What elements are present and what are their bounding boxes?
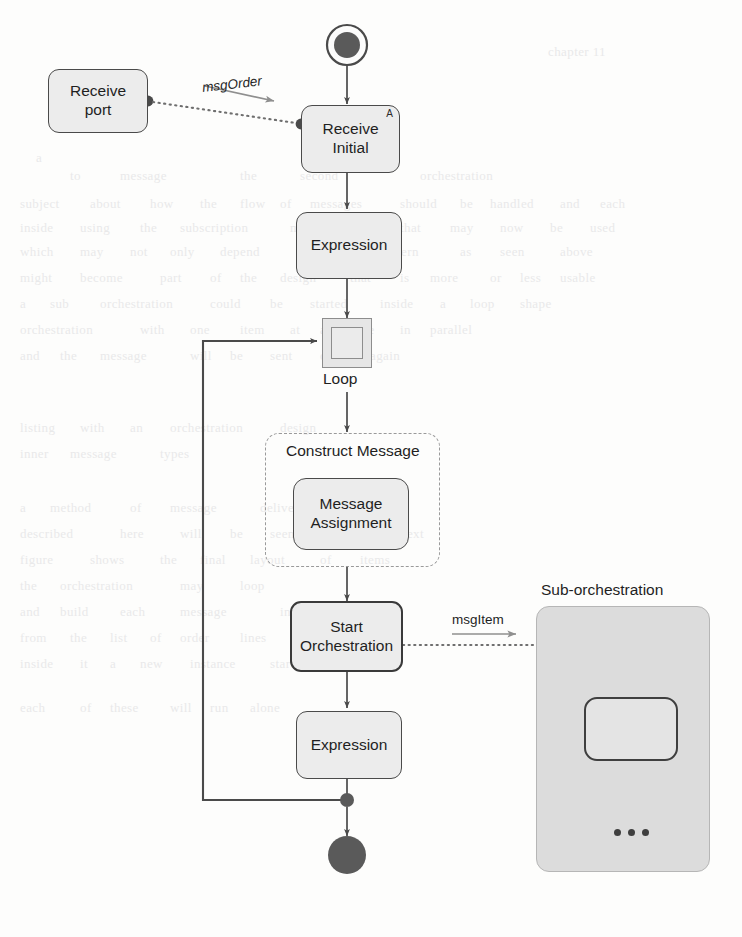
junction-dot — [340, 793, 354, 807]
connector-label-msgitem: msgItem — [452, 612, 504, 627]
node-receive-initial[interactable]: Receive Initial A — [301, 105, 400, 173]
loop-inner-square — [331, 327, 363, 359]
node-expression-2[interactable]: Expression — [296, 711, 402, 779]
suborchestration-ellipsis-icon — [614, 829, 649, 836]
node-expression-1-label: Expression — [311, 236, 388, 255]
diagram-canvas: chapter 11atomessagethesecondorchestrati… — [0, 0, 742, 937]
node-message-assignment[interactable]: Message Assignment — [293, 478, 409, 550]
msgorder-dotted-line — [153, 102, 296, 123]
end-terminator-icon — [328, 836, 366, 874]
node-loop-label: Loop — [323, 370, 357, 388]
node-expression-2-label: Expression — [311, 736, 388, 755]
group-construct-message-title: Construct Message — [286, 442, 420, 460]
node-suborchestration-activity[interactable] — [584, 697, 678, 761]
node-receive-initial-label: Receive Initial — [323, 120, 379, 158]
node-start-orchestration[interactable]: Start Orchestration — [290, 601, 403, 672]
node-start-orchestration-label: Start Orchestration — [300, 618, 393, 656]
node-receive-port[interactable]: Receive port — [48, 69, 148, 133]
receive-initial-activation-marker: A — [386, 108, 393, 120]
node-receive-port-label: Receive port — [70, 82, 126, 120]
node-expression-1[interactable]: Expression — [296, 212, 402, 279]
node-message-assignment-label: Message Assignment — [311, 495, 392, 533]
suborchestration-title: Sub-orchestration — [541, 581, 663, 599]
start-terminator-icon — [327, 25, 367, 65]
